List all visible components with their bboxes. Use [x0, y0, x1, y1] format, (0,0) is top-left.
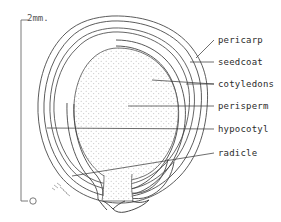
label-seedcoat: seedcoat [218, 57, 263, 67]
label-pericarp: pericarp [218, 35, 263, 45]
scale-bar-top-label: 2mm. [27, 13, 49, 23]
label-perisperm: perisperm [218, 101, 269, 111]
handwritten-note-marks [52, 183, 70, 196]
label-hypocotyl: hypocotyl [218, 124, 269, 134]
scale-bar-zero-glyph [30, 198, 36, 204]
label-radicle: radicle [218, 148, 257, 158]
scale-bar-graphic [21, 20, 28, 201]
label-cotyledons: cotyledons [218, 79, 274, 89]
seed-section-drawing [0, 0, 281, 222]
figure-canvas: 2mm. pericarp seedcoat cotyledons perisp… [0, 0, 281, 222]
